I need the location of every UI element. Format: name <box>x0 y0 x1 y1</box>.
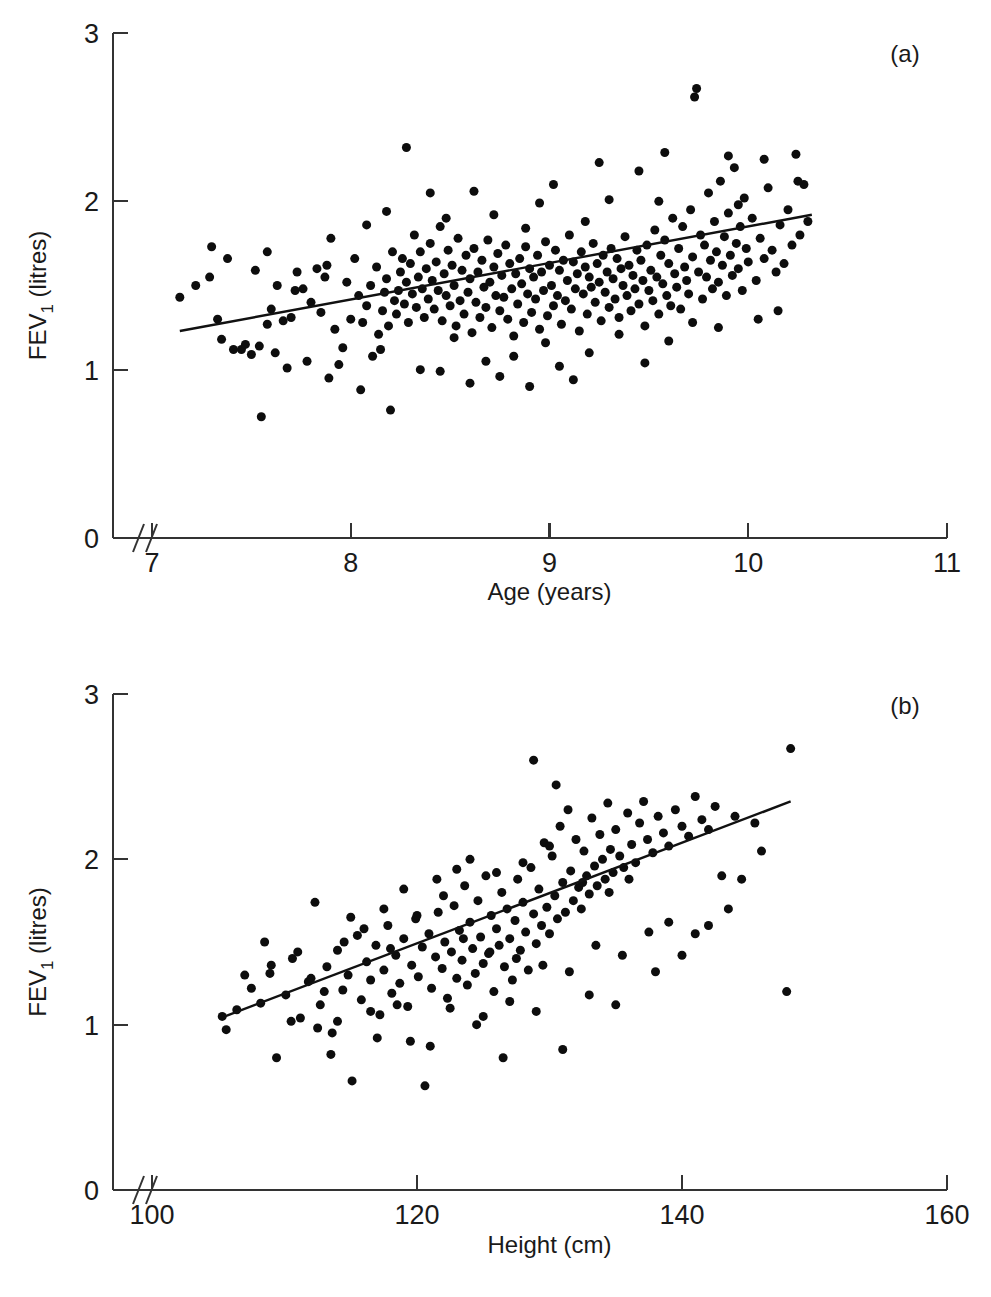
data-point <box>342 278 351 287</box>
data-point <box>497 888 506 897</box>
data-point <box>780 259 789 268</box>
data-point <box>508 976 517 985</box>
data-point <box>257 412 266 421</box>
data-point <box>519 858 528 867</box>
data-point <box>575 326 584 335</box>
data-point <box>724 151 733 160</box>
data-point <box>489 210 498 219</box>
data-point <box>700 241 709 250</box>
data-point <box>511 916 520 925</box>
y-axis-title-main: FEV <box>24 314 51 361</box>
data-point <box>489 262 498 271</box>
data-point <box>362 220 371 229</box>
data-point <box>191 281 200 290</box>
data-point <box>175 293 184 302</box>
data-point <box>603 268 612 277</box>
data-point <box>579 289 588 298</box>
data-point <box>358 318 367 327</box>
data-point <box>489 987 498 996</box>
data-point <box>247 984 256 993</box>
data-point <box>690 92 699 101</box>
data-point <box>263 247 272 256</box>
data-point <box>706 256 715 265</box>
data-point <box>313 1023 322 1032</box>
data-point <box>640 321 649 330</box>
data-point <box>591 941 600 950</box>
data-point <box>595 158 604 167</box>
data-point <box>481 303 490 312</box>
data-point <box>664 337 673 346</box>
panel-label-a: (a) <box>890 40 919 67</box>
data-point <box>697 815 706 824</box>
data-point <box>407 961 416 970</box>
data-point <box>466 379 475 388</box>
data-point <box>660 148 669 157</box>
data-point <box>711 802 720 811</box>
data-point <box>512 954 521 963</box>
data-point <box>529 909 538 918</box>
data-point <box>553 914 562 923</box>
x-tick-label: 8 <box>343 548 358 578</box>
data-point <box>466 855 475 864</box>
data-point <box>556 822 565 831</box>
data-point <box>710 217 719 226</box>
data-point <box>366 976 375 985</box>
data-point <box>606 845 615 854</box>
data-point <box>787 241 796 250</box>
data-point <box>611 1000 620 1009</box>
x-axis-title: Age (years) <box>487 578 611 605</box>
data-point <box>524 966 533 975</box>
data-point <box>545 929 554 938</box>
data-point <box>678 951 687 960</box>
data-point <box>316 308 325 317</box>
data-point <box>768 246 777 255</box>
data-point <box>460 881 469 890</box>
data-point <box>481 357 490 366</box>
data-point <box>469 187 478 196</box>
data-point <box>742 244 751 253</box>
data-point <box>267 961 276 970</box>
data-point <box>772 268 781 277</box>
data-point <box>312 264 321 273</box>
data-point <box>750 818 759 827</box>
data-point <box>442 214 451 223</box>
data-point <box>493 249 502 258</box>
data-point <box>626 306 635 315</box>
data-point <box>368 352 377 361</box>
data-point <box>541 237 550 246</box>
data-point <box>601 288 610 297</box>
data-point <box>577 904 586 913</box>
data-point <box>356 385 365 394</box>
data-point <box>442 291 451 300</box>
data-point <box>296 1014 305 1023</box>
data-point <box>724 209 733 218</box>
data-point <box>734 200 743 209</box>
data-point <box>634 300 643 309</box>
data-point <box>615 313 624 322</box>
data-point <box>605 888 614 897</box>
data-point <box>265 969 274 978</box>
data-point <box>521 242 530 251</box>
data-point <box>330 325 339 334</box>
data-point <box>371 941 380 950</box>
data-point <box>414 972 423 981</box>
data-point <box>517 279 526 288</box>
data-point <box>509 332 518 341</box>
data-point <box>222 1025 231 1034</box>
data-point <box>784 205 793 214</box>
data-point <box>353 931 362 940</box>
data-point <box>499 293 508 302</box>
data-point <box>360 924 369 933</box>
data-point <box>724 904 733 913</box>
data-point <box>718 261 727 270</box>
data-point <box>241 340 250 349</box>
data-point <box>585 273 594 282</box>
data-point <box>569 896 578 905</box>
data-point <box>459 934 468 943</box>
data-point <box>565 231 574 240</box>
data-point <box>774 306 783 315</box>
data-point <box>531 294 540 303</box>
data-point <box>760 254 769 263</box>
y-tick-label: 3 <box>84 680 99 710</box>
data-point <box>668 214 677 223</box>
